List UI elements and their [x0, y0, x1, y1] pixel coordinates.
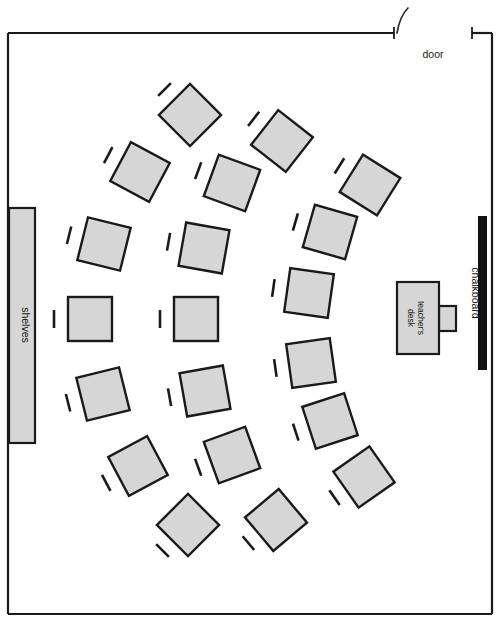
student-desk-19[interactable]	[289, 393, 358, 453]
floor-plan-canvas: door chalkboard shelves teacher'sdesk	[0, 0, 502, 626]
student-desk-10[interactable]	[165, 220, 230, 273]
desk-surface[interactable]	[108, 436, 168, 496]
teacher-desk-label-line1: teacher's	[416, 301, 426, 335]
student-desk-20[interactable]	[322, 446, 395, 515]
shelves-label: shelves	[20, 307, 32, 343]
student-desk-05[interactable]	[63, 367, 130, 424]
chair-icon	[274, 359, 277, 377]
chair-icon	[67, 227, 71, 244]
door-swing-arc-icon	[397, 8, 408, 33]
desk-surface[interactable]	[286, 338, 336, 388]
student-desk-17[interactable]	[270, 266, 334, 318]
chair-icon	[156, 544, 169, 557]
student-desk-03[interactable]	[64, 214, 131, 271]
desk-surface[interactable]	[76, 367, 129, 420]
student-desk-01[interactable]	[149, 74, 221, 146]
desk-surface[interactable]	[159, 84, 221, 146]
desk-surface[interactable]	[204, 427, 260, 483]
chair-icon	[158, 83, 171, 96]
student-desk-09[interactable]	[191, 150, 261, 211]
door-group[interactable]: door	[394, 8, 472, 60]
student-desks-group	[54, 74, 400, 566]
student-desk-02[interactable]	[98, 136, 170, 202]
chair-icon	[66, 394, 70, 411]
classroom-floor-plan: door chalkboard shelves teacher'sdesk	[0, 0, 502, 626]
student-desk-18[interactable]	[272, 338, 336, 390]
desk-surface[interactable]	[68, 297, 112, 341]
chair-icon	[102, 475, 110, 491]
desk-surface[interactable]	[174, 297, 218, 341]
desk-surface[interactable]	[110, 142, 170, 202]
chalkboard-group: chalkboard	[470, 216, 487, 370]
student-desk-06[interactable]	[96, 436, 168, 502]
desk-surface[interactable]	[245, 489, 307, 551]
chalkboard-label: chalkboard	[470, 267, 482, 319]
student-desk-14[interactable]	[234, 489, 307, 560]
chair-icon	[243, 536, 255, 550]
student-desk-11[interactable]	[160, 297, 218, 341]
student-desk-08[interactable]	[240, 101, 313, 171]
student-desk-07[interactable]	[147, 494, 219, 566]
desk-surface[interactable]	[303, 205, 357, 259]
teacher-desk-side-unit	[439, 306, 456, 331]
teacher-desk-group[interactable]: teacher'sdesk	[397, 282, 456, 354]
student-desk-13[interactable]	[191, 427, 261, 488]
door-label: door	[422, 48, 444, 60]
chair-icon	[329, 490, 339, 505]
chair-icon	[167, 233, 170, 251]
student-desk-12[interactable]	[166, 366, 231, 419]
chair-icon	[195, 162, 201, 179]
desk-surface[interactable]	[77, 217, 130, 270]
desk-surface[interactable]	[251, 110, 313, 172]
teacher-desk-label-line2: desk	[406, 309, 416, 328]
chair-icon	[168, 388, 171, 406]
chair-icon	[293, 213, 298, 230]
desk-surface[interactable]	[204, 155, 260, 211]
chair-icon	[104, 147, 112, 163]
chair-icon	[195, 459, 201, 476]
chair-icon	[335, 158, 345, 173]
desk-surface[interactable]	[302, 393, 357, 448]
desk-surface[interactable]	[157, 494, 219, 556]
chair-icon	[272, 279, 275, 297]
student-desk-15[interactable]	[328, 147, 401, 215]
desk-surface[interactable]	[284, 268, 334, 318]
desk-surface[interactable]	[180, 366, 231, 417]
desk-surface[interactable]	[179, 223, 230, 274]
desk-surface[interactable]	[333, 446, 394, 507]
student-desk-16[interactable]	[289, 201, 357, 259]
desk-surface[interactable]	[340, 155, 401, 216]
shelves-group: shelves	[9, 208, 35, 443]
student-desk-04[interactable]	[54, 297, 112, 341]
chair-icon	[293, 424, 299, 441]
chair-icon	[248, 112, 259, 126]
